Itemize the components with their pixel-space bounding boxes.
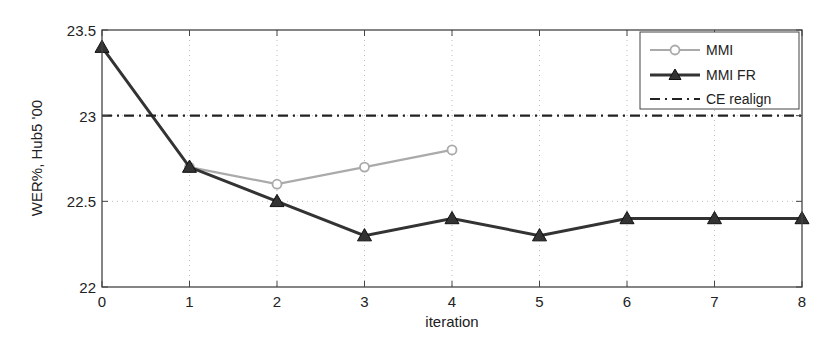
mmi-fr-marker [445, 211, 459, 223]
mmi-marker [448, 145, 457, 154]
y-tick-label: 23 [79, 108, 96, 125]
line-chart: 0123456782222.52323.5 iteration WER%, Hu… [0, 0, 833, 347]
x-tick-label: 7 [710, 293, 718, 310]
mmi-line [190, 150, 453, 184]
x-tick-label: 2 [273, 293, 281, 310]
x-tick-label: 8 [798, 293, 806, 310]
x-axis-label: iteration [425, 313, 478, 330]
legend-label: CE realign [706, 91, 771, 107]
legend: MMIMMI FRCE realign [640, 32, 799, 109]
mmi-marker [360, 163, 369, 172]
x-tick-label: 3 [360, 293, 368, 310]
legend-label: MMI FR [706, 67, 756, 83]
x-tick-label: 6 [623, 293, 631, 310]
x-tick-label: 5 [535, 293, 543, 310]
x-tick-label: 0 [98, 293, 106, 310]
y-tick-label: 22 [79, 279, 96, 296]
x-tick-label: 1 [185, 293, 193, 310]
y-axis-label: WER%, Hub5 '00 [28, 100, 45, 216]
y-tick-label: 23.5 [67, 22, 96, 39]
mmi-marker [273, 180, 282, 189]
x-tick-label: 4 [448, 293, 456, 310]
y-tick-label: 22.5 [67, 193, 96, 210]
legend-mmi-marker [671, 46, 680, 55]
legend-label: MMI [706, 42, 733, 58]
